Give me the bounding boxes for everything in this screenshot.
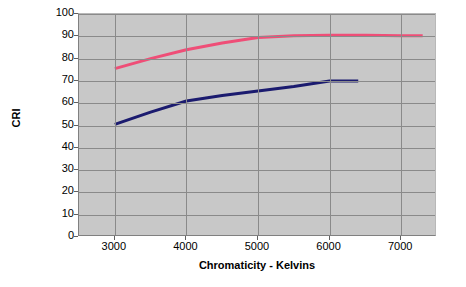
gridline-vertical — [258, 14, 259, 235]
x-tick-mark — [257, 236, 258, 240]
x-tick-mark — [400, 236, 401, 240]
gridline-vertical — [401, 14, 402, 235]
x-tick-mark — [114, 236, 115, 240]
y-tick-mark — [74, 125, 78, 126]
plot-area — [78, 13, 436, 236]
y-tick-label: 60 — [18, 96, 74, 107]
x-tick-mark — [329, 236, 330, 240]
y-axis-title: CRI — [10, 88, 22, 148]
cri-vs-chromaticity-chart: 1009080706050403020100 30004000500060007… — [0, 0, 466, 287]
y-tick-label: 100 — [18, 7, 74, 18]
y-tick-label: 0 — [18, 230, 74, 241]
y-tick-label: 40 — [18, 141, 74, 152]
gridline-horizontal — [79, 148, 435, 149]
x-axis-title: Chromaticity - Kelvins — [78, 259, 436, 271]
y-tick-label: 50 — [18, 119, 74, 130]
y-tick-label: 20 — [18, 185, 74, 196]
y-tick-mark — [74, 58, 78, 59]
y-tick-mark — [74, 13, 78, 14]
x-tick-label: 6000 — [299, 240, 359, 252]
x-tick-label: 4000 — [155, 240, 215, 252]
y-tick-label: 80 — [18, 52, 74, 63]
gridline-horizontal — [79, 103, 435, 104]
gridline-vertical — [115, 14, 116, 235]
gridline-horizontal — [79, 126, 435, 127]
y-tick-mark — [74, 147, 78, 148]
gridline-horizontal — [79, 81, 435, 82]
y-tick-mark — [74, 80, 78, 81]
y-tick-label: 10 — [18, 208, 74, 219]
y-tick-mark — [74, 191, 78, 192]
y-tick-mark — [74, 236, 78, 237]
x-tick-mark — [185, 236, 186, 240]
gridline-horizontal — [79, 215, 435, 216]
gridline-vertical — [186, 14, 187, 235]
gridline-vertical — [330, 14, 331, 235]
gridline-horizontal — [79, 170, 435, 171]
gridline-horizontal — [79, 192, 435, 193]
gridline-horizontal — [79, 36, 435, 37]
x-tick-label: 5000 — [227, 240, 287, 252]
y-tick-mark — [74, 169, 78, 170]
y-tick-mark — [74, 35, 78, 36]
y-tick-label: 30 — [18, 163, 74, 174]
y-tick-mark — [74, 214, 78, 215]
y-tick-label: 70 — [18, 74, 74, 85]
series-line-upper-cri-curve — [115, 35, 423, 68]
y-tick-mark — [74, 102, 78, 103]
x-tick-label: 3000 — [84, 240, 144, 252]
x-axis-tick-labels: 30004000500060007000 — [78, 240, 436, 256]
gridline-horizontal — [79, 59, 435, 60]
x-tick-label: 7000 — [370, 240, 430, 252]
gridline-horizontal — [79, 14, 435, 15]
y-tick-label: 90 — [18, 29, 74, 40]
